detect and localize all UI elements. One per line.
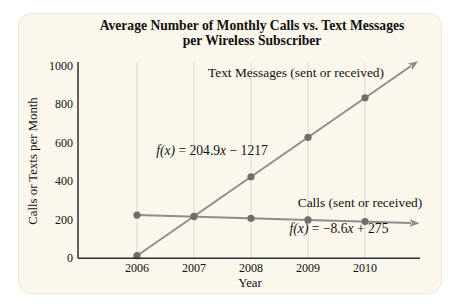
calls-equation-const: + 275 [354, 221, 389, 236]
y-tick-1000: 1000 [49, 59, 73, 73]
calls-equation-var: x [347, 221, 354, 236]
calls-equation: f(x) = −8.6x + 275 [290, 221, 389, 237]
x-tick-2007: 2007 [182, 261, 206, 275]
chart-canvas: Average Number of Monthly Calls vs. Text… [0, 0, 455, 306]
x-axis-title: Year [238, 276, 262, 290]
calls-data-point-2006 [133, 211, 140, 218]
y-tick-800: 800 [55, 97, 73, 111]
calls-data-point-2008 [247, 215, 254, 222]
texts-data-point-2009 [304, 134, 311, 141]
calls-data-point-2007 [190, 213, 197, 220]
texts-series-label: Text Messages (sent or received) [208, 65, 384, 80]
chart-figure: Average Number of Monthly Calls vs. Text… [0, 0, 455, 306]
texts-data-point-2010 [361, 94, 368, 101]
texts-equation-var: x [219, 143, 226, 158]
y-tick-400: 400 [55, 174, 73, 188]
x-tick-2008: 2008 [239, 261, 263, 275]
calls-equation-fx: f(x) [290, 221, 309, 237]
texts-equation: f(x) = 204.9x − 1217 [156, 143, 268, 159]
chart-title-line2: per Wireless Subscriber [183, 33, 322, 48]
texts-equation-const: − 1217 [226, 143, 268, 158]
x-tick-2010: 2010 [353, 261, 377, 275]
y-axis-title: Calls or Texts per Month [26, 97, 40, 225]
y-tick-600: 600 [55, 136, 73, 150]
calls-equation-coef: = −8.6 [308, 221, 347, 236]
x-tick-2006: 2006 [125, 261, 149, 275]
y-tick-200: 200 [55, 213, 73, 227]
texts-data-point-2008 [247, 173, 254, 180]
chart-title-line1: Average Number of Monthly Calls vs. Text… [100, 18, 405, 33]
x-tick-2009: 2009 [296, 261, 320, 275]
texts-equation-coef: = 204.9 [175, 143, 220, 158]
calls-series-label: Calls (sent or received) [298, 195, 423, 210]
texts-equation-fx: f(x) [156, 143, 175, 159]
y-tick-0: 0 [67, 251, 73, 265]
